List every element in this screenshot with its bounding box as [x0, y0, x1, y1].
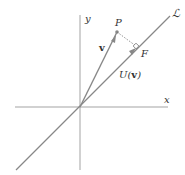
projection-suffix: ): [136, 69, 141, 80]
point-p-label: P: [114, 17, 122, 28]
x-axis-label: x: [164, 94, 170, 105]
perpendicular-dotted: [117, 32, 136, 46]
projection-label: U(v): [119, 69, 141, 80]
projection-diagram: y x ℒ P F v U(v): [0, 0, 185, 175]
line-l: [16, 16, 170, 170]
point-f-label: F: [140, 48, 149, 59]
y-axis-label: y: [84, 13, 91, 24]
vector-v-label: v: [98, 42, 106, 53]
line-l-label: ℒ: [172, 7, 181, 20]
